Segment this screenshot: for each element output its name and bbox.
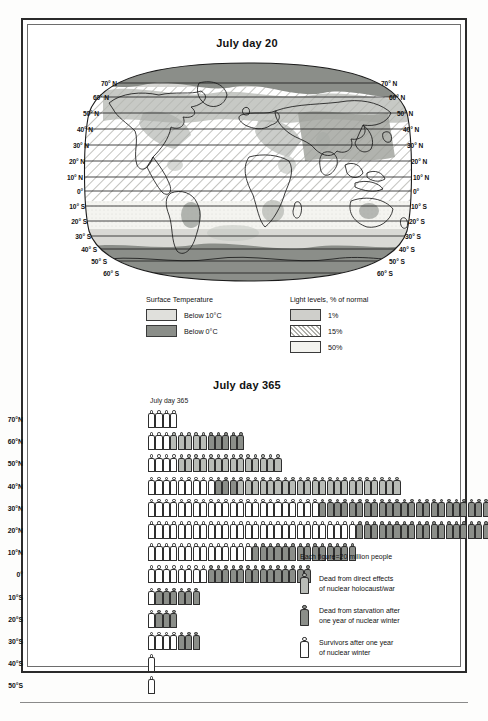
person-figure-starve (453, 499, 460, 517)
person-figure-starve (185, 632, 192, 650)
person-figure-survive (200, 477, 207, 495)
person-figure-survive (170, 565, 177, 583)
each-figure-note: Each figure=20 million people (300, 553, 488, 560)
map-legend: Surface Temperature Below 10°C Below 0°C… (28, 295, 466, 365)
person-figure-survive (215, 521, 222, 539)
pictogram-row: 60°N (28, 429, 488, 451)
person-figure-direct (185, 432, 192, 450)
person-figure-survive (148, 477, 155, 495)
pictogram-row-label: 40°N (0, 483, 28, 490)
page-canvas: July day 20 (0, 0, 488, 721)
pictogram-row: 50°N (28, 451, 488, 473)
person-figure-direct (371, 477, 378, 495)
person-figure-survive (185, 499, 192, 517)
pictogram-row: 50°S (28, 673, 488, 695)
person-figure-survive (334, 521, 341, 539)
person-figure-starve (208, 432, 215, 450)
person-figure-survive (155, 410, 162, 428)
person-figure-starve (230, 477, 237, 495)
person-figure-survive (237, 521, 244, 539)
person-figure-starve (364, 499, 371, 517)
person-figure-starve (386, 521, 393, 539)
lat-label-right-10n: 10° N (413, 174, 429, 181)
person-figure-survive (200, 499, 207, 517)
person-figure-starve (393, 499, 400, 517)
person-figure-survive (297, 499, 304, 517)
person-figure-survive (215, 499, 222, 517)
person-figure-survive (208, 477, 215, 495)
person-figure-survive (312, 499, 319, 517)
legend-row-light-1: 1% (290, 309, 368, 321)
person-figure-survive (237, 499, 244, 517)
person-figure-direct (386, 477, 393, 495)
person-figure-direct (260, 477, 267, 495)
person-figure-starve (483, 499, 488, 517)
pictogram-row-label: 10°S (0, 594, 28, 601)
page-frame-outer: July day 20 (21, 18, 467, 673)
person-figure-direct (245, 454, 252, 472)
person-figure-starve (260, 543, 267, 561)
pictogram-row-figures (148, 675, 155, 694)
page-bottom-rule (20, 702, 468, 703)
legend-heading-light: Light levels, % of normal (290, 295, 368, 304)
person-figure-starve (327, 499, 334, 517)
pictogram-row-label: 0° (0, 572, 28, 579)
person-figure-starve (252, 565, 259, 583)
chart-legend-survivors-line2: of nuclear winter (319, 648, 393, 658)
person-figure-starve (222, 432, 229, 450)
person-figure-starve (393, 521, 400, 539)
person-figure-starve (386, 499, 393, 517)
person-figure-starve (155, 610, 162, 628)
person-figure-starve (237, 565, 244, 583)
person-figure-direct (252, 454, 259, 472)
person-figure-survive (237, 543, 244, 561)
person-figure-survive (252, 499, 259, 517)
person-figure-survive (155, 432, 162, 450)
person-figure-starve (267, 565, 274, 583)
lat-label-left-60s: 60° S (103, 270, 119, 277)
person-figure-starve (483, 521, 488, 539)
person-figure-survive (178, 543, 185, 561)
person-figure-direct (289, 477, 296, 495)
person-figure-starve (453, 521, 460, 539)
lat-label-right-30n: 30° N (407, 142, 423, 149)
person-figure-survive (222, 521, 229, 539)
chart-legend-row-survivors: Survivors after one year of nuclear wint… (300, 637, 488, 658)
person-figure-direct (237, 454, 244, 472)
person-figure-survive (148, 499, 155, 517)
person-figure-starve (401, 521, 408, 539)
person-figure-survive (282, 521, 289, 539)
person-figure-survive (148, 432, 155, 450)
person-figure-direct (267, 477, 274, 495)
person-figure-survive (155, 521, 162, 539)
person-figure-direct (356, 477, 363, 495)
person-figure-survive (163, 565, 170, 583)
legend-group-temperature: Surface Temperature Below 10°C Below 0°C (146, 295, 222, 341)
person-figure-starve (371, 499, 378, 517)
person-figure-direct (393, 477, 400, 495)
person-figure-survive (304, 521, 311, 539)
person-figure-starve (356, 499, 363, 517)
person-figure-starve (423, 521, 430, 539)
map-title: July day 20 (28, 37, 466, 49)
person-figure-direct (222, 454, 229, 472)
person-figure-survive (148, 565, 155, 583)
person-figure-survive (163, 477, 170, 495)
pictogram-row-label: 70°N (0, 416, 28, 423)
person-figure-direct (215, 454, 222, 472)
person-figure-survive (304, 499, 311, 517)
lat-label-left-0: 0° (77, 188, 83, 195)
person-figure-starve (282, 543, 289, 561)
person-figure-direct (237, 477, 244, 495)
person-figure-starve (178, 588, 185, 606)
person-figure-survive (163, 454, 170, 472)
legend-heading-temperature: Surface Temperature (146, 295, 222, 304)
person-figure-survive (193, 499, 200, 517)
lat-label-left-20s: 20° S (71, 218, 87, 225)
lat-label-left-40n: 40° N (77, 126, 93, 133)
person-figure-starve (163, 588, 170, 606)
chart-legend: Each figure=20 million people Dead from … (300, 553, 488, 669)
person-figure-starve (245, 565, 252, 583)
lat-label-left-70n: 70° N (101, 80, 117, 87)
person-figure-starve (260, 565, 267, 583)
